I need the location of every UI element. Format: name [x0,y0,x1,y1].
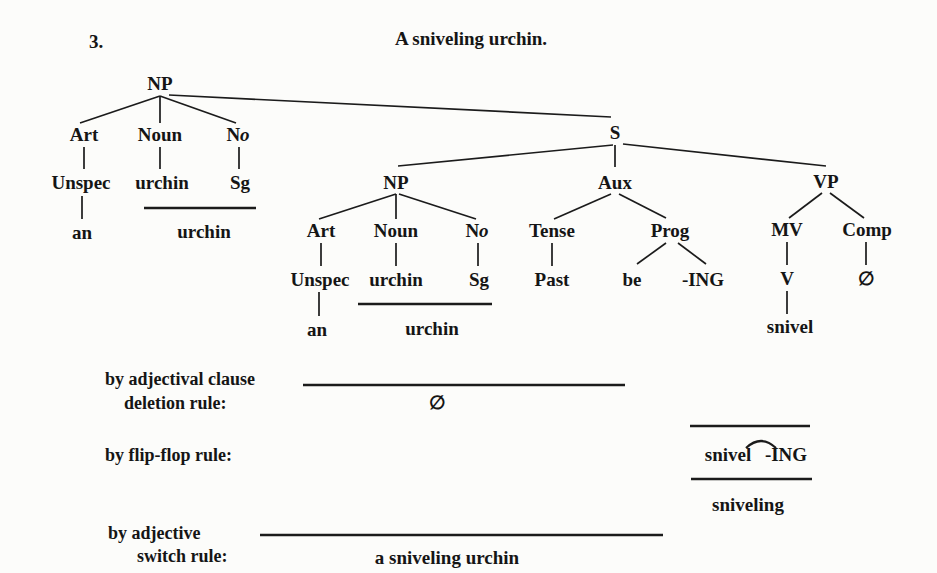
rule-flip-flop-expr-snivel: snivel [705,444,751,466]
node-comp-null: ∅ [858,268,875,290]
node-urchin-matrix: urchin [135,172,189,194]
node-no-embedded: No [465,220,488,242]
node-s: S [610,122,621,144]
rule-adjective-switch-label-line1: by adjective [108,522,200,544]
rule-adjectival-clause-label-line2: deletion rule: [124,392,226,414]
node-ing: -ING [682,269,724,291]
node-art-embedded: Art [307,220,335,242]
node-prog: Prog [651,220,690,242]
node-no-embedded-n: N [465,220,479,241]
item-number: 3. [89,31,103,53]
node-snivel: snivel [767,316,813,338]
node-sg-matrix: Sg [230,172,250,194]
node-mv: MV [771,219,803,241]
rule-flip-flop-expr-ing: -ING [765,444,807,466]
rule-flip-flop-label: by flip-flop rule: [105,444,232,466]
rule-flip-flop-result: sniveling [712,494,784,516]
rule-adjectival-clause-result: ∅ [429,392,446,414]
node-unspec-embedded: Unspec [290,269,349,291]
node-urchin-merged-embedded: urchin [405,318,459,340]
node-urchin-embedded: urchin [369,269,423,291]
node-no-embedded-o: o [479,220,489,241]
node-noun-embedded: Noun [374,220,418,242]
node-np-embedded: NP [383,172,408,194]
node-noun-matrix: Noun [138,124,182,146]
node-tense: Tense [529,220,575,242]
node-urchin-merged-matrix: urchin [177,221,231,243]
node-np-matrix: NP [147,73,172,95]
node-no-matrix: No [226,124,249,146]
node-no-matrix-n: N [226,124,240,145]
scanned-textbook-page: 3. A sniveling urchin. NP Art Noun No Un… [0,0,937,573]
node-no-matrix-o: o [240,124,250,145]
rule-adjectival-clause-label-line1: by adjectival clause [105,368,255,390]
node-be: be [623,269,642,291]
node-sg-embedded: Sg [469,269,489,291]
node-an-embedded: an [307,319,327,341]
node-v: V [780,268,794,290]
node-art-matrix: Art [70,124,98,146]
rule-adjective-switch-result: a sniveling urchin [375,547,519,569]
rule-adjective-switch-label-line2: switch rule: [137,545,227,567]
node-comp: Comp [842,219,892,241]
node-vp: VP [813,171,838,193]
node-unspec-matrix: Unspec [51,172,110,194]
node-an-matrix: an [72,222,92,244]
page-title: A sniveling urchin. [395,28,547,50]
node-aux: Aux [598,172,632,194]
node-past: Past [535,269,570,291]
